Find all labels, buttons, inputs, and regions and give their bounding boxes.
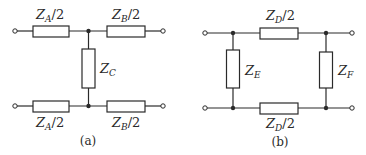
junction-node (324, 31, 328, 35)
label-zf: ZF (337, 63, 354, 80)
label-zd-top: ZD/2 (265, 8, 295, 25)
terminal-icon (203, 106, 207, 110)
terminal-icon (13, 29, 17, 33)
caption-a: (a) (80, 134, 97, 148)
impedance-zf (320, 52, 333, 88)
label-zb-bottom: ZB/2 (111, 115, 140, 132)
impedance-za-top (33, 26, 69, 37)
label-zd-bottom: ZD/2 (265, 116, 295, 133)
impedance-zd-top (260, 28, 298, 39)
circuit-a: ZA/2 ZB/2 ZC ZA/2 ZB/2 (a) (13, 7, 165, 148)
terminal-icon (13, 104, 17, 108)
label-zb-top: ZB/2 (111, 7, 140, 24)
label-zc: ZC (99, 61, 116, 78)
impedance-zb-bottom (107, 101, 145, 112)
junction-node (231, 31, 235, 35)
terminal-icon (161, 29, 165, 33)
label-ze: ZE (244, 63, 261, 80)
impedance-ze (227, 50, 240, 88)
impedance-zd-bottom (260, 103, 298, 114)
junction-node (231, 106, 235, 110)
impedance-zb-top (107, 26, 145, 37)
circuit-b: ZD/2 ZE ZF ZD/2 (b) (203, 8, 354, 149)
caption-b: (b) (271, 135, 288, 149)
terminal-icon (350, 106, 354, 110)
label-za-bottom: ZA/2 (35, 115, 64, 132)
terminal-icon (203, 31, 207, 35)
impedance-zc (82, 49, 95, 88)
junction-node (324, 106, 328, 110)
circuit-diagram: ZA/2 ZB/2 ZC ZA/2 ZB/2 (a) (0, 0, 366, 155)
junction-node (86, 29, 90, 33)
junction-node (86, 104, 90, 108)
terminal-icon (350, 31, 354, 35)
label-za-top: ZA/2 (35, 7, 64, 24)
terminal-icon (161, 104, 165, 108)
impedance-za-bottom (33, 101, 69, 112)
